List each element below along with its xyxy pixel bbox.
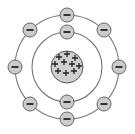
atom-diagram <box>0 0 135 134</box>
